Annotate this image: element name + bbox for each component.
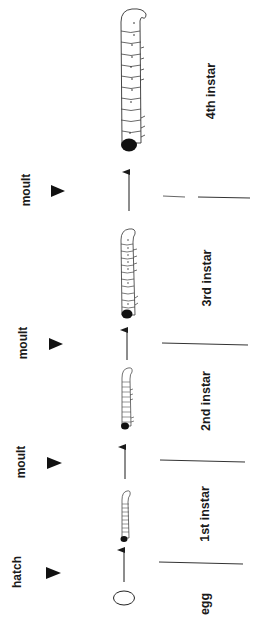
separator-line: [162, 343, 248, 345]
event-label-moult-3: moult: [20, 174, 32, 207]
egg-icon: [114, 591, 135, 605]
life-cycle-diagram: hatch moult moult moult egg 1st instar 2…: [0, 0, 266, 626]
separator-line: [198, 197, 250, 198]
separator-line: [160, 460, 245, 462]
moult-3-marker-icon: [51, 185, 65, 197]
larva-2nd-instar-icon: [121, 368, 134, 430]
moult-1-marker-icon: [47, 457, 62, 469]
hatch-marker-icon: [46, 567, 61, 579]
stage-label-3rd-instar: 3rd instar: [201, 250, 214, 307]
stage-label-2nd-instar: 2nd instar: [200, 371, 213, 431]
event-label-hatch: hatch: [11, 556, 23, 588]
separator-line: [159, 562, 243, 564]
stage-label-1st-instar: 1st instar: [199, 486, 212, 542]
event-label-moult-1: moult: [15, 446, 27, 479]
event-label-moult-2: moult: [17, 327, 29, 360]
larva-1st-instar-icon: [121, 491, 131, 542]
separator-line: [163, 196, 185, 197]
diagram-graphics: [0, 0, 266, 626]
stage-label-egg: egg: [199, 593, 212, 615]
event-markers: [46, 185, 65, 579]
stage-label-4th-instar: 4th instar: [205, 63, 218, 119]
moult-2-marker-icon: [49, 338, 63, 350]
larva-4th-instar-icon: [121, 9, 146, 152]
larva-3rd-instar-icon: [121, 229, 138, 319]
